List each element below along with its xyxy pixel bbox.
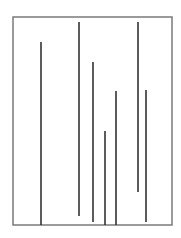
- diagram-canvas: [0, 0, 181, 238]
- vertical-segments-group: [41, 22, 146, 225]
